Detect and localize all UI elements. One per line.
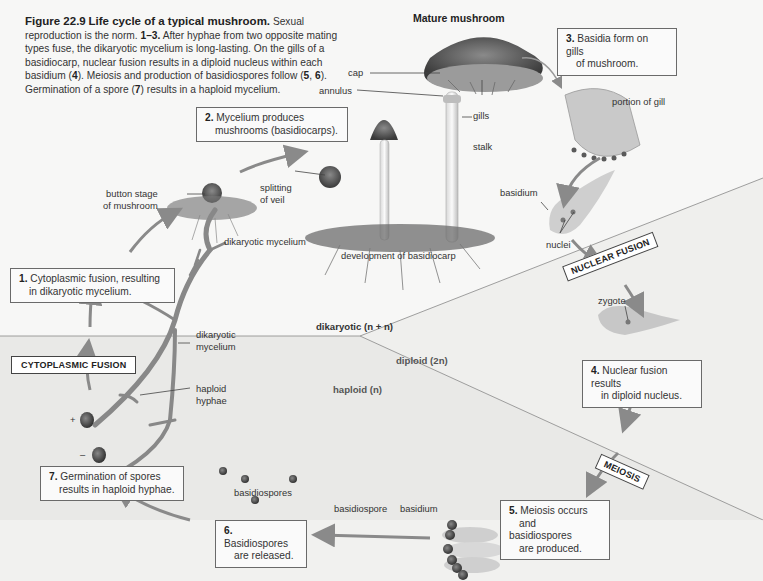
step-3-box: 3. Basidia form on gills of mushroom. — [557, 28, 677, 76]
mature-mushroom-heading: Mature mushroom — [413, 12, 505, 24]
diploid-region-label: diploid (2n) — [396, 355, 448, 366]
step-text: Cytoplasmic fusion, resulting — [30, 273, 160, 284]
step-text: of mushroom. — [566, 58, 638, 69]
step-6-box: 6. Basidiospores are released. — [215, 520, 307, 568]
cap-label: cap — [348, 67, 363, 79]
step-text: Basidia form on gills — [566, 33, 648, 57]
stalk-label: stalk — [473, 141, 492, 153]
figure-label: Figure 22.9 — [25, 15, 86, 27]
step-text: Germination of spores — [60, 471, 160, 482]
step-number: 4. — [591, 365, 600, 376]
minus-mating-type: – — [80, 449, 85, 461]
splitting-of-veil-label: splitting of veil — [260, 182, 292, 205]
nuclei-label: nuclei — [546, 239, 571, 251]
step-7-box: 7. Germination of spores results in hapl… — [40, 466, 184, 501]
dikaryotic-mycelium-top-label: dikaryotic mycelium — [224, 236, 306, 248]
basidiospore-label: basidiospore — [334, 503, 387, 515]
step-number: 6. — [224, 525, 233, 536]
haploid-region-label: haploid (n) — [333, 384, 382, 395]
step-text: mushrooms (basidiocarps). — [205, 125, 338, 136]
plus-mating-type: + — [70, 414, 75, 426]
step-number: 3. — [566, 33, 575, 44]
step-5-box: 5. Meiosis occurs and basidiospores are … — [500, 500, 610, 560]
step-number: 1. — [19, 273, 28, 284]
label-line: mycelium — [196, 341, 236, 352]
step-4-box: 4. Nuclear fusion results in diploid nuc… — [582, 360, 702, 408]
gills-label: gills — [473, 110, 489, 122]
cytoplasmic-fusion-tag: CYTOPLASMIC FUSION — [11, 356, 136, 374]
step-text: results in haploid hyphae. — [49, 484, 175, 495]
caption-text: ). Meiosis and production of basidiospor… — [78, 70, 304, 81]
step-1-box: 1. Cytoplasmic fusion, resulting in dika… — [10, 268, 175, 303]
step-text: are produced. — [509, 543, 582, 554]
haploid-hyphae-label: haploid hyphae — [196, 383, 227, 406]
dikaryotic-mycelium-label: dikaryotic mycelium — [196, 329, 236, 352]
step-text: are released. — [224, 550, 293, 561]
dikaryotic-region-label: dikaryotic (n + n) — [316, 321, 393, 332]
step-text: in diploid nucleus. — [591, 390, 682, 401]
portion-of-gill-label: portion of gill — [612, 96, 665, 108]
step-text: in dikaryotic mycelium. — [19, 286, 131, 297]
label-line: button stage — [106, 188, 158, 199]
label-line: splitting — [260, 182, 292, 193]
button-stage-label: button stage of mushroom — [103, 188, 158, 211]
step-text: and basidiospores — [509, 518, 572, 542]
step-text: Basidiospores — [224, 538, 288, 549]
caption-step-range: 1–3. — [141, 30, 161, 41]
step-text: Nuclear fusion results — [591, 365, 667, 389]
step-2-box: 2. Mycelium produces mushrooms (basidioc… — [196, 107, 348, 142]
figure-title: Life cycle of a typical mushroom. — [89, 15, 271, 27]
label-line: haploid — [196, 383, 226, 394]
step-text: Mycelium produces — [216, 112, 304, 123]
label-line: hyphae — [196, 395, 227, 406]
step-text: Meiosis occurs — [520, 505, 587, 516]
annulus-label: annulus — [319, 85, 352, 97]
basidium-bottom-label: basidium — [400, 503, 438, 515]
figure-caption: Figure 22.9 Life cycle of a typical mush… — [25, 15, 340, 97]
label-line: of mushroom — [103, 200, 158, 211]
label-line: dikaryotic — [196, 329, 236, 340]
mature-mushroom — [424, 37, 543, 242]
basidiospores-label: basidiospores — [234, 487, 292, 499]
label-line: of veil — [260, 194, 285, 205]
step-number: 5. — [509, 505, 518, 516]
step-number: 2. — [205, 112, 214, 123]
young-mushroom — [370, 120, 398, 240]
zygote-label: zygote — [598, 295, 626, 307]
development-label: development of basidiocarp — [341, 250, 456, 262]
basidium-label: basidium — [500, 187, 538, 199]
caption-text: ) results in a haploid mycelium. — [141, 84, 281, 95]
step-number: 7. — [49, 471, 58, 482]
